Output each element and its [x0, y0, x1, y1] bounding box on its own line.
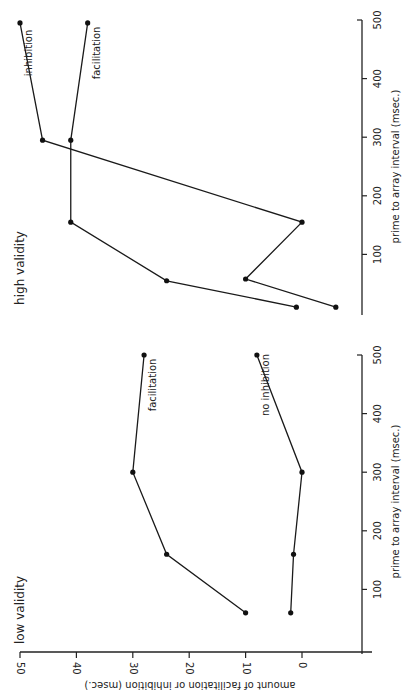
value-tick-label: 20: [184, 662, 195, 675]
low-validity-panel: 100200300400500prime to array interval (…: [13, 345, 401, 654]
series-facilitation: facilitation: [130, 352, 248, 615]
chart-svg: 01020304050amount of facilitation or inh…: [0, 0, 405, 692]
rotated-figure: 01020304050amount of facilitation or inh…: [0, 0, 405, 692]
value-tick-label: 10: [241, 662, 252, 675]
value-tick-label: 0: [297, 662, 308, 668]
time-tick-label: 400: [372, 69, 383, 88]
value-tick-label: 50: [15, 662, 26, 675]
data-point: [288, 610, 293, 615]
data-point: [68, 220, 73, 225]
data-point: [299, 220, 304, 225]
value-tick-label: 40: [71, 662, 82, 675]
series-label: inhibition: [23, 30, 34, 77]
time-tick-label: 200: [372, 186, 383, 205]
data-point: [130, 470, 135, 475]
time-tick-label: 400: [372, 404, 383, 423]
panel-title: low validity: [13, 576, 27, 644]
time-tick-label: 100: [372, 580, 383, 599]
series-label: facilitation: [147, 359, 158, 412]
data-point: [40, 138, 45, 143]
series-inhibition: inhibition: [17, 20, 338, 309]
time-tick-label: 100: [372, 245, 383, 264]
data-point: [68, 138, 73, 143]
data-point: [333, 305, 338, 310]
data-point: [299, 470, 304, 475]
value-axis-label: amount of facilitation or inhibition (ms…: [84, 680, 295, 691]
panel-title: high validity: [13, 231, 27, 305]
data-point: [85, 20, 90, 25]
series-facilitation: facilitation: [68, 20, 299, 309]
high-validity-panel: 100200300400500prime to array interval (…: [13, 10, 401, 315]
series-label: facilitation: [91, 27, 102, 80]
time-tick-label: 500: [372, 10, 383, 29]
data-point: [141, 352, 146, 357]
data-point: [243, 276, 248, 281]
data-point: [164, 278, 169, 283]
time-tick-label: 300: [372, 463, 383, 482]
time-tick-label: 500: [372, 345, 383, 364]
data-point: [164, 552, 169, 557]
value-axis: 01020304050amount of facilitation or inh…: [15, 652, 372, 691]
time-tick-label: 200: [372, 521, 383, 540]
data-point: [254, 352, 259, 357]
data-point: [243, 610, 248, 615]
data-point: [17, 20, 22, 25]
series-no-inhibition: no inhibition: [254, 352, 304, 615]
time-tick-label: 300: [372, 128, 383, 147]
data-point: [294, 305, 299, 310]
series-label: no inhibition: [260, 354, 271, 416]
time-axis-label: prime to array interval (msec.): [390, 425, 401, 579]
time-axis-label: prime to array interval (msec.): [390, 90, 401, 244]
value-tick-label: 30: [128, 662, 139, 675]
data-point: [291, 552, 296, 557]
